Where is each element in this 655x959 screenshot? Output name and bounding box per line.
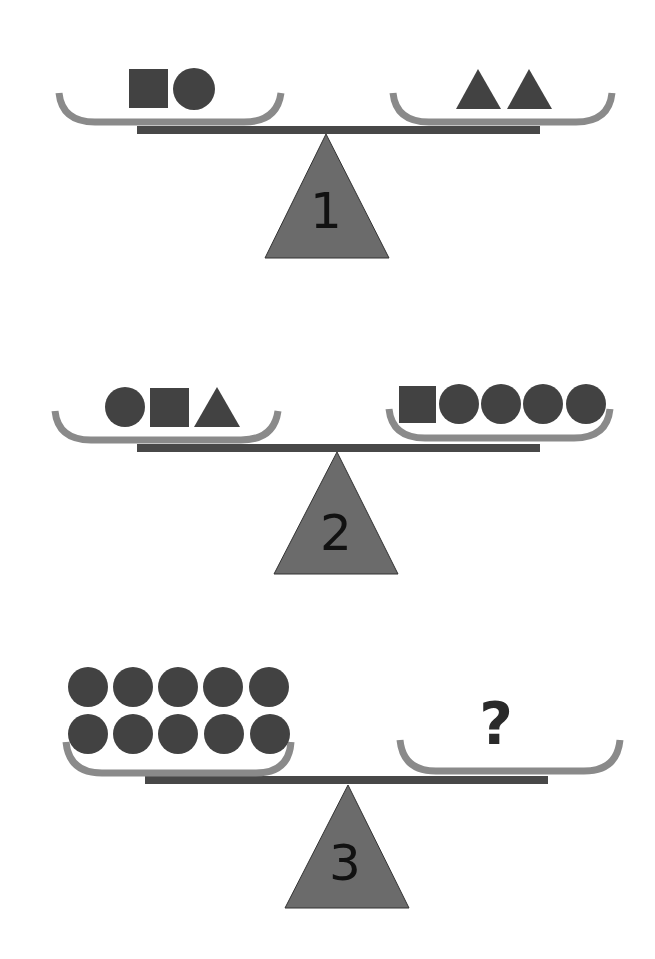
scale-1: 1 [59, 68, 612, 258]
circle-shape [204, 714, 244, 754]
circle-shape [523, 384, 563, 424]
circle-shape [158, 714, 198, 754]
circle-shape [113, 714, 153, 754]
circle-shape [439, 384, 479, 424]
right-pan-contents: ? [479, 690, 513, 758]
circle-shape [250, 714, 290, 754]
right-pan [393, 93, 612, 122]
circle-shape [158, 667, 198, 707]
right-pan-contents [456, 69, 552, 109]
circle-shape [113, 667, 153, 707]
square-shape [129, 69, 168, 108]
circle-shape [173, 68, 215, 110]
circle-shape [481, 384, 521, 424]
balance-puzzle-diagram: 1 2 3 [0, 0, 655, 959]
left-pan-contents [68, 667, 290, 754]
beam [145, 776, 548, 784]
scale-label: 1 [310, 182, 342, 240]
scale-label: 3 [329, 834, 361, 892]
circle-shape [68, 714, 108, 754]
scale-2: 2 [55, 384, 610, 574]
left-pan [59, 93, 281, 122]
square-shape [150, 388, 189, 427]
beam [137, 444, 540, 452]
left-pan-contents [105, 387, 240, 427]
scale-3: 3 ? [66, 667, 620, 908]
question-mark: ? [479, 690, 513, 758]
circle-shape [249, 667, 289, 707]
beam [137, 126, 540, 134]
circle-shape [203, 667, 243, 707]
triangle-shape [456, 69, 501, 109]
right-pan-contents [399, 384, 606, 424]
triangle-shape [194, 387, 240, 427]
circle-shape [105, 387, 145, 427]
square-shape [399, 386, 436, 423]
circle-shape [68, 667, 108, 707]
scale-label: 2 [320, 504, 352, 562]
left-pan-contents [129, 68, 215, 110]
triangle-shape [507, 69, 552, 109]
circle-shape [566, 384, 606, 424]
